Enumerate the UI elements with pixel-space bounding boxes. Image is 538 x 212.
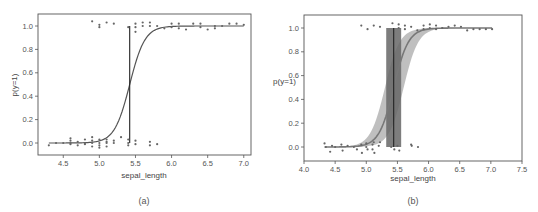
data-point — [331, 145, 333, 147]
y-tick-label: 0.0 — [23, 139, 33, 148]
data-point — [127, 26, 129, 28]
data-point — [199, 23, 201, 25]
x-tick-label: 6.0 — [423, 165, 433, 174]
data-point — [120, 136, 122, 138]
data-point — [356, 148, 358, 150]
data-point — [365, 142, 367, 144]
data-point — [422, 28, 424, 30]
data-point — [84, 138, 86, 140]
panel-label: (a) — [139, 196, 150, 206]
data-point — [329, 151, 331, 153]
data-point — [340, 144, 342, 146]
data-point — [228, 23, 230, 25]
data-point — [105, 145, 107, 147]
data-point — [170, 23, 172, 25]
data-point — [91, 145, 93, 147]
panel-a-chart: 0.00.20.40.60.81.04.55.05.56.06.57.0sepa… — [10, 14, 251, 206]
data-point — [491, 28, 493, 30]
data-point — [77, 141, 79, 143]
data-point — [221, 25, 223, 27]
data-point — [98, 142, 100, 144]
x-tick-label: 7.5 — [517, 165, 527, 174]
data-point — [113, 142, 115, 144]
data-point — [98, 138, 100, 140]
data-point — [98, 24, 100, 26]
x-tick-label: 6.0 — [166, 159, 176, 168]
data-point — [485, 28, 487, 30]
data-point — [435, 28, 437, 30]
x-axis-label: sepal_length — [390, 174, 435, 183]
y-tick-label: 0.8 — [23, 45, 33, 54]
data-point — [55, 142, 57, 144]
data-point — [472, 28, 474, 30]
data-point — [411, 145, 413, 147]
data-point — [429, 27, 431, 29]
x-tick-label: 5.0 — [94, 159, 104, 168]
y-tick-label: 0.6 — [23, 68, 33, 77]
plot-frame — [38, 14, 251, 155]
data-point — [447, 26, 449, 28]
data-point — [366, 28, 368, 30]
data-point — [113, 23, 115, 25]
data-point — [371, 144, 373, 146]
logistic-curve — [49, 26, 244, 143]
data-point — [373, 152, 375, 154]
data-point — [398, 23, 400, 25]
y-axis-label: p(y=1) — [273, 77, 296, 86]
x-tick-label: 7.0 — [486, 165, 496, 174]
data-point — [178, 23, 180, 25]
data-point — [127, 144, 129, 146]
panel-b-chart: 0.00.20.40.60.81.04.04.55.05.56.06.57.07… — [273, 15, 527, 206]
data-point — [214, 25, 216, 27]
data-point — [347, 145, 349, 147]
data-point — [441, 27, 443, 29]
data-point — [127, 142, 129, 144]
data-point — [391, 22, 393, 24]
data-point — [48, 144, 50, 146]
data-point — [156, 143, 158, 145]
data-point — [460, 26, 462, 28]
data-point — [323, 142, 325, 144]
data-point — [77, 144, 79, 146]
data-point — [105, 141, 107, 143]
data-point — [373, 25, 375, 27]
data-point — [185, 28, 187, 30]
y-tick-label: 0.8 — [289, 47, 299, 56]
data-point — [134, 23, 136, 25]
data-point — [214, 27, 216, 29]
x-tick-label: 4.5 — [330, 165, 340, 174]
data-point — [479, 28, 481, 30]
y-tick-label: 0.4 — [289, 95, 299, 104]
data-point — [62, 142, 64, 144]
data-point — [134, 26, 136, 28]
data-point — [398, 27, 400, 29]
y-tick-label: 0.2 — [23, 115, 33, 124]
data-point — [113, 140, 115, 142]
data-point — [334, 146, 336, 148]
x-tick-label: 5.5 — [130, 159, 140, 168]
data-point — [366, 148, 368, 150]
data-point — [235, 23, 237, 25]
x-tick-label: 5.5 — [392, 165, 402, 174]
data-point — [243, 24, 245, 26]
data-point — [178, 27, 180, 29]
data-point — [373, 141, 375, 143]
x-tick-label: 4.5 — [58, 159, 68, 168]
data-point — [390, 146, 392, 148]
x-tick-label: 4.0 — [299, 165, 309, 174]
data-point — [417, 146, 419, 148]
data-point — [396, 145, 398, 147]
data-point — [404, 25, 406, 27]
data-point — [127, 138, 129, 140]
data-point — [378, 145, 380, 147]
data-point — [69, 137, 71, 139]
data-point — [207, 28, 209, 30]
x-tick-label: 5.0 — [361, 165, 371, 174]
data-point — [149, 25, 151, 27]
data-point — [371, 148, 373, 150]
data-point — [69, 143, 71, 145]
data-point — [149, 21, 151, 23]
data-point — [134, 140, 136, 142]
data-point — [192, 23, 194, 25]
data-point — [393, 148, 395, 150]
